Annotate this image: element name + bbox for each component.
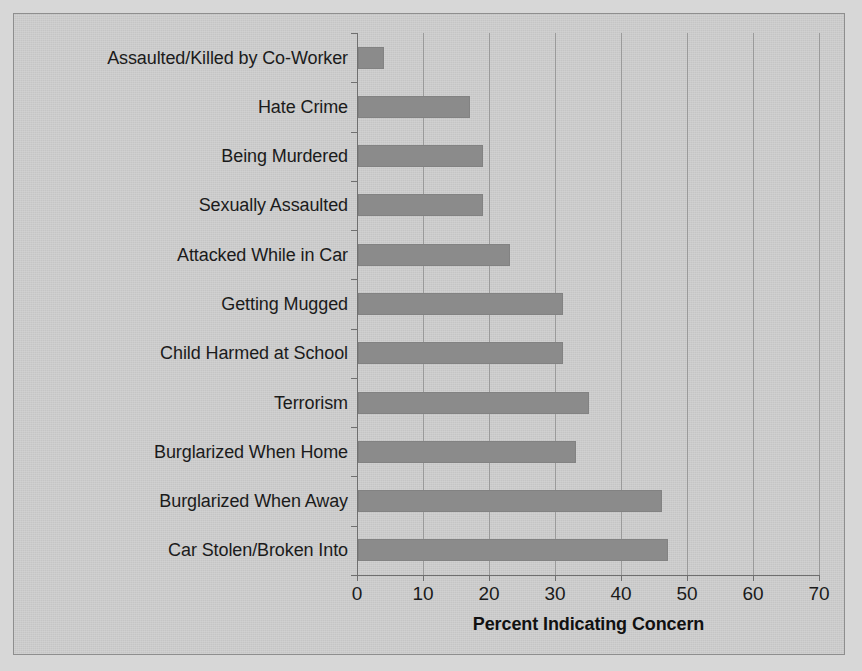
bar bbox=[358, 293, 563, 315]
category-label-group: Assaulted/Killed by Co-WorkerHate CrimeB… bbox=[0, 33, 348, 575]
bar bbox=[358, 96, 470, 118]
y-tick-0 bbox=[351, 33, 357, 34]
y-tick-3 bbox=[351, 181, 357, 182]
y-tick-10 bbox=[351, 526, 357, 527]
y-tick-2 bbox=[351, 132, 357, 133]
x-tick-label: 40 bbox=[610, 583, 631, 605]
y-tick-5 bbox=[351, 279, 357, 280]
bar bbox=[358, 194, 483, 216]
bar bbox=[358, 47, 384, 69]
figure-container: Assaulted/Killed by Co-WorkerHate CrimeB… bbox=[0, 0, 862, 671]
category-label: Burglarized When Away bbox=[159, 491, 348, 512]
y-axis-line bbox=[357, 33, 358, 576]
category-label: Car Stolen/Broken Into bbox=[168, 540, 348, 561]
category-label: Attacked While in Car bbox=[177, 244, 348, 265]
bar bbox=[358, 244, 510, 266]
x-axis-title: Percent Indicating Concern bbox=[357, 614, 820, 635]
bar bbox=[358, 441, 576, 463]
category-label: Burglarized When Home bbox=[154, 441, 348, 462]
x-tick-label: 30 bbox=[544, 583, 565, 605]
x-tick-label: 70 bbox=[808, 583, 829, 605]
x-axis-line bbox=[357, 575, 820, 576]
gridline-60 bbox=[753, 33, 754, 575]
y-tick-1 bbox=[351, 82, 357, 83]
x-tick-label: 0 bbox=[352, 583, 363, 605]
x-tick-label: 50 bbox=[676, 583, 697, 605]
y-tick-7 bbox=[351, 378, 357, 379]
bar bbox=[358, 145, 483, 167]
bar bbox=[358, 392, 589, 414]
x-tick-label-group: 010203040506070 bbox=[357, 583, 820, 609]
gridline-50 bbox=[687, 33, 688, 575]
y-tick-6 bbox=[351, 329, 357, 330]
category-label: Getting Mugged bbox=[221, 294, 348, 315]
y-tick-9 bbox=[351, 476, 357, 477]
x-tick-label: 60 bbox=[742, 583, 763, 605]
gridline-70 bbox=[819, 33, 820, 575]
y-tick-4 bbox=[351, 230, 357, 231]
category-label: Terrorism bbox=[274, 392, 348, 413]
category-label: Assaulted/Killed by Co-Worker bbox=[107, 47, 348, 68]
y-tick-8 bbox=[351, 427, 357, 428]
category-label: Child Harmed at School bbox=[160, 343, 348, 364]
x-tick-label: 10 bbox=[412, 583, 433, 605]
category-label: Sexually Assaulted bbox=[199, 195, 348, 216]
category-label: Hate Crime bbox=[258, 96, 348, 117]
x-tick-label: 20 bbox=[478, 583, 499, 605]
bar bbox=[358, 539, 668, 561]
bar bbox=[358, 342, 563, 364]
plot-area bbox=[357, 33, 819, 575]
bar bbox=[358, 490, 662, 512]
category-label: Being Murdered bbox=[221, 146, 348, 167]
